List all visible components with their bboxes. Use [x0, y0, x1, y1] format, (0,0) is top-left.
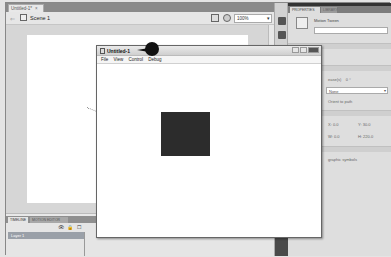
- x-value[interactable]: X: 0.0: [328, 122, 338, 127]
- maximize-button[interactable]: [300, 47, 307, 53]
- library-icon[interactable]: [278, 31, 286, 39]
- zoom-select[interactable]: 100% ▾: [234, 14, 272, 23]
- menu-debug[interactable]: Debug: [148, 57, 161, 62]
- swf-menu-bar: File View Control Debug: [97, 56, 321, 64]
- zoom-value: 100%: [237, 16, 249, 21]
- menu-file[interactable]: File: [101, 57, 108, 62]
- layer-row[interactable]: Layer 1: [8, 232, 84, 239]
- ease-label: ease(s) 0 °: [328, 77, 351, 82]
- tab-library[interactable]: LIBRARY: [321, 7, 337, 13]
- document-tab[interactable]: Untitled-1*×: [8, 4, 44, 12]
- ease-value[interactable]: 0 °: [346, 77, 351, 82]
- swf-window-title: Untitled-1: [107, 48, 130, 54]
- edit-symbols-icon[interactable]: [211, 14, 219, 22]
- chevron-down-icon: ▾: [267, 15, 270, 21]
- rotate-select[interactable]: None▾: [326, 87, 388, 94]
- window-controls: [291, 47, 319, 54]
- sync-graphic-symbols-checkbox[interactable]: graphic symbols: [328, 157, 357, 162]
- chevron-down-icon: ▾: [384, 88, 386, 93]
- instance-type-label: Motion Tween: [314, 18, 339, 23]
- properties-tab-bar: PROPERTIES LIBRARY: [288, 6, 391, 13]
- motion-tween-icon: [296, 17, 308, 29]
- close-button[interactable]: [308, 47, 319, 53]
- document-tab-bar: Untitled-1*×: [6, 3, 274, 12]
- document-tab-label: Untitled-1*: [11, 6, 32, 11]
- orient-to-path-checkbox[interactable]: Orient to path: [328, 99, 352, 104]
- animated-square: [161, 112, 210, 156]
- swf-title-bar[interactable]: Untitled-1: [97, 46, 321, 56]
- close-icon[interactable]: ×: [35, 6, 38, 11]
- h-value[interactable]: H: 220.0: [358, 134, 373, 139]
- edit-scene-icon[interactable]: [223, 14, 231, 22]
- minimize-button[interactable]: [292, 47, 299, 53]
- instance-name-input[interactable]: [314, 27, 388, 34]
- back-arrow-icon[interactable]: ⇐: [10, 15, 15, 22]
- menu-view[interactable]: View: [114, 57, 124, 62]
- swf-player-window: Untitled-1 File View Control Debug: [96, 45, 322, 238]
- y-value[interactable]: Y: 30.0: [358, 122, 370, 127]
- motion-presets-icon[interactable]: [278, 17, 286, 25]
- w-value[interactable]: W: 0.0: [328, 134, 340, 139]
- tab-properties[interactable]: PROPERTIES: [290, 7, 320, 13]
- layer-name: Layer 1: [11, 233, 24, 238]
- scene-icon: [20, 14, 27, 21]
- menu-control[interactable]: Control: [128, 57, 143, 62]
- flash-player-icon: [100, 48, 105, 54]
- layer-toggle-icons[interactable]: 👁 🔒 ☐: [58, 224, 82, 230]
- scene-bar: ⇐ Scene 1 100% ▾: [6, 12, 274, 25]
- scene-label[interactable]: Scene 1: [30, 15, 50, 21]
- swf-canvas: [99, 65, 319, 235]
